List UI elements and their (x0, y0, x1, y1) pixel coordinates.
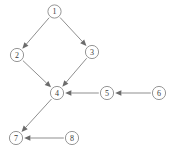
graph-edge: 4 to 7 (22, 99, 52, 132)
edge-line (60, 18, 82, 42)
graph-edge: 3 to 4 (62, 58, 86, 87)
graph-svg: 1 to 21 to 32 to 43 to 45 to 46 to 54 to… (0, 0, 174, 157)
node-label: 4 (55, 89, 59, 98)
graph-edge: 1 to 3 (60, 18, 86, 46)
node-label: 2 (15, 51, 19, 60)
graph-node-6[interactable]: 6 (152, 86, 165, 99)
node-label: 7 (14, 134, 18, 143)
edge-arrowhead-icon (24, 135, 30, 140)
edges-layer: 1 to 21 to 32 to 43 to 45 to 46 to 54 to… (22, 18, 151, 141)
node-label: 5 (105, 89, 109, 98)
edge-arrowhead-icon (65, 90, 71, 95)
graph-edge: 6 to 5 (115, 90, 151, 95)
node-label: 6 (157, 89, 161, 98)
graph-edge: 8 to 7 (24, 135, 64, 140)
graph-node-1[interactable]: 1 (48, 5, 61, 18)
graph-node-3[interactable]: 3 (85, 45, 98, 58)
node-label: 3 (90, 48, 94, 57)
edge-line (26, 99, 52, 127)
graph-canvas: 1 to 21 to 32 to 43 to 45 to 46 to 54 to… (0, 0, 174, 157)
graph-node-7[interactable]: 7 (9, 131, 22, 144)
edge-arrowhead-icon (115, 90, 121, 95)
graph-edge: 5 to 4 (65, 90, 99, 95)
graph-edge: 2 to 4 (23, 61, 51, 88)
graph-edge: 1 to 2 (22, 18, 49, 49)
node-label: 8 (70, 134, 74, 143)
graph-node-2[interactable]: 2 (10, 48, 23, 61)
edge-line (66, 58, 86, 82)
node-label: 1 (53, 7, 57, 16)
nodes-layer: 12345678 (9, 5, 165, 145)
edge-line (23, 61, 47, 83)
edge-line (26, 18, 49, 44)
graph-node-5[interactable]: 5 (100, 86, 113, 99)
graph-node-8[interactable]: 8 (65, 131, 78, 144)
graph-node-4[interactable]: 4 (50, 86, 63, 99)
